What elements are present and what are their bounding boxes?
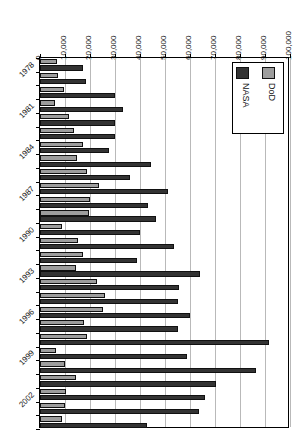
bar-dod-1998 <box>40 334 87 339</box>
bar-dod-2001 <box>40 375 76 380</box>
bar-nasa-1979 <box>40 79 86 84</box>
bar-dod-1984 <box>40 142 83 147</box>
year-label-1999: 1999 <box>6 349 36 379</box>
legend-entry-nasa: NASA <box>233 67 255 131</box>
bar-dod-1990 <box>40 224 62 229</box>
bar-dod-1995 <box>40 293 105 298</box>
legend-label-nasa: NASA <box>241 83 251 105</box>
bar-dod-1987 <box>40 183 99 188</box>
bar-chart: 010,00020,00030,00040,00050,00060,00070,… <box>0 0 301 435</box>
year-label-1993: 1993 <box>6 266 36 296</box>
bar-nasa-1985 <box>40 162 151 167</box>
year-label-1981: 1981 <box>6 101 36 131</box>
bar-dod-2000 <box>40 361 65 366</box>
value-axis-tick <box>165 54 166 58</box>
bar-dod-2003 <box>40 403 65 408</box>
value-axis-tick-label: 100,000 <box>284 31 293 60</box>
bar-nasa-1993 <box>40 271 200 276</box>
bar-nasa-1995 <box>40 299 178 304</box>
bar-dod-1981 <box>40 100 55 105</box>
bar-nasa-1982 <box>40 120 115 125</box>
legend-label-dod: DoD <box>267 83 277 105</box>
bar-dod-1989 <box>40 210 89 215</box>
bar-dod-1999 <box>40 348 56 353</box>
value-axis-tick <box>215 54 216 58</box>
bar-nasa-1987 <box>40 189 168 194</box>
value-axis-tick <box>115 54 116 58</box>
value-axis-tick <box>90 54 91 58</box>
bar-nasa-1978 <box>40 65 83 70</box>
bar-nasa-1984 <box>40 148 109 153</box>
bar-dod-1993 <box>40 265 76 270</box>
bar-nasa-1999 <box>40 354 187 359</box>
bar-nasa-2003 <box>40 409 199 414</box>
value-axis-tick <box>140 54 141 58</box>
value-axis-tick <box>265 54 266 58</box>
bar-nasa-1986 <box>40 175 130 180</box>
bar-dod-1986 <box>40 169 87 174</box>
gridline <box>290 58 291 427</box>
bar-nasa-2002 <box>40 395 205 400</box>
value-axis-tick <box>65 54 66 58</box>
bar-nasa-2001 <box>40 381 216 386</box>
bar-dod-1980 <box>40 87 64 92</box>
bar-dod-1985 <box>40 155 77 160</box>
bar-dod-1988 <box>40 197 90 202</box>
bar-nasa-1994 <box>40 285 179 290</box>
bar-nasa-1991 <box>40 244 174 249</box>
year-label-1996: 1996 <box>6 308 36 338</box>
bar-dod-2002 <box>40 389 66 394</box>
bar-dod-1978 <box>40 59 57 64</box>
bar-nasa-1990 <box>40 230 140 235</box>
bar-dod-1991 <box>40 238 78 243</box>
bar-dod-2004 <box>40 416 62 421</box>
legend-entry-dod: DoD <box>259 67 281 131</box>
bar-nasa-1996 <box>40 313 190 318</box>
year-label-1984: 1984 <box>6 143 36 173</box>
bar-nasa-2004 <box>40 423 147 428</box>
bar-dod-1994 <box>40 279 97 284</box>
bar-nasa-2000 <box>40 368 256 373</box>
bar-dod-1983 <box>40 128 74 133</box>
bar-dod-1982 <box>40 114 69 119</box>
bar-dod-1997 <box>40 320 84 325</box>
category-axis-tick <box>36 429 40 430</box>
bar-nasa-1983 <box>40 134 115 139</box>
year-label-2002: 2002 <box>6 390 36 420</box>
year-label-1978: 1978 <box>6 60 36 90</box>
bar-dod-1996 <box>40 307 103 312</box>
value-axis-tick <box>290 54 291 58</box>
value-axis-tick <box>40 54 41 58</box>
bar-nasa-1998 <box>40 340 269 345</box>
legend-swatch-nasa <box>236 67 249 79</box>
year-label-1987: 1987 <box>6 184 36 214</box>
bar-nasa-1981 <box>40 107 123 112</box>
bar-dod-1992 <box>40 252 83 257</box>
year-label-1990: 1990 <box>6 225 36 255</box>
chart-legend: NASA DoD <box>232 62 284 134</box>
bar-nasa-1997 <box>40 326 178 331</box>
bar-nasa-1989 <box>40 216 156 221</box>
bar-nasa-1988 <box>40 203 148 208</box>
bar-nasa-1992 <box>40 258 137 263</box>
bar-dod-1979 <box>40 73 58 78</box>
legend-swatch-dod <box>262 67 275 79</box>
bar-nasa-1980 <box>40 93 115 98</box>
value-axis-tick <box>240 54 241 58</box>
value-axis-tick <box>190 54 191 58</box>
